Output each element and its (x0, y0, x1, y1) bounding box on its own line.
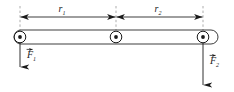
figure-container: r1 r2 (0, 0, 234, 92)
force-label-F2-group: F2 (209, 55, 219, 68)
pivot-left-center-dot (18, 35, 22, 39)
force-label-F2-subscript: 2 (216, 62, 219, 68)
pivot-center-center-dot (114, 35, 118, 39)
dimension-label-r2: r2 (155, 3, 162, 16)
free-body-diagram: r1 r2 (0, 0, 234, 92)
pivot-left (14, 31, 26, 43)
extension-lines (20, 6, 203, 31)
force-label-F2: F2 (209, 55, 219, 68)
dimension-label-r2-subscript: 2 (158, 10, 161, 16)
dimension-label-r1-subscript: 1 (62, 10, 65, 16)
pivot-right-center-dot (201, 35, 205, 39)
dimension-label-r1: r1 (59, 3, 66, 16)
force-label-F1-subscript: 1 (33, 56, 36, 62)
pivot-right (197, 31, 209, 43)
force-label-F1: F1 (26, 49, 36, 62)
force-label-F1-group: F1 (26, 49, 36, 62)
pivot-center (110, 31, 122, 43)
